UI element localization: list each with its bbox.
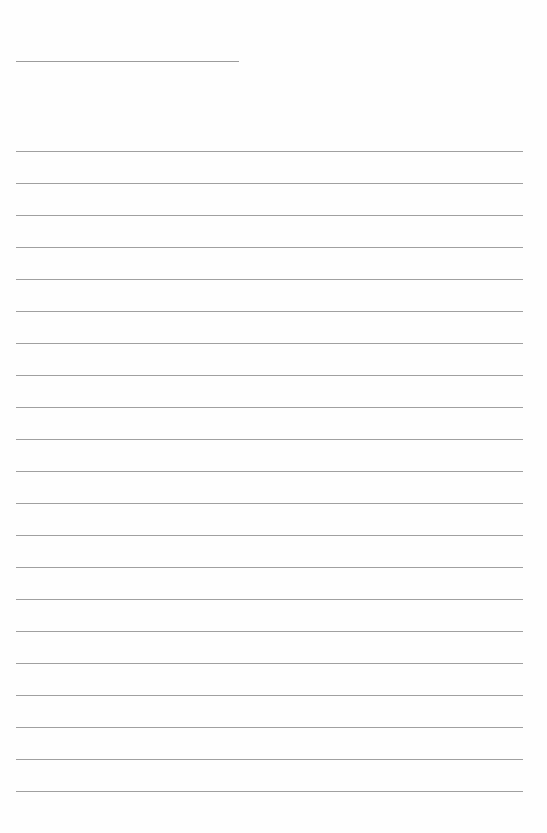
ruled-line [16, 183, 523, 184]
ruled-line [16, 247, 523, 248]
ruled-page [0, 0, 547, 833]
ruled-line [16, 215, 523, 216]
ruled-line [16, 535, 523, 536]
ruled-line [16, 599, 523, 600]
ruled-line [16, 375, 523, 376]
ruled-line [16, 151, 523, 152]
ruled-line [16, 279, 523, 280]
ruled-line [16, 343, 523, 344]
ruled-line [16, 695, 523, 696]
ruled-line [16, 503, 523, 504]
ruled-line [16, 663, 523, 664]
ruled-line [16, 439, 523, 440]
header-name-line [16, 61, 239, 62]
ruled-line [16, 407, 523, 408]
ruled-line [16, 791, 523, 792]
ruled-line [16, 727, 523, 728]
ruled-line [16, 759, 523, 760]
ruled-line [16, 311, 523, 312]
ruled-line [16, 471, 523, 472]
ruled-line [16, 567, 523, 568]
ruled-line [16, 631, 523, 632]
